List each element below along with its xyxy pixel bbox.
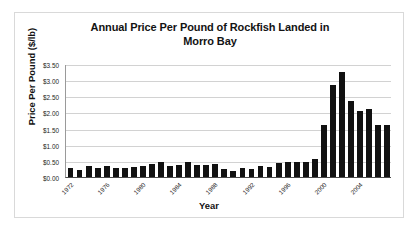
x-axis-title: Year <box>15 200 403 211</box>
bar <box>194 165 200 177</box>
bar <box>258 166 264 177</box>
y-axis-tick-label: $0.50 <box>43 158 59 165</box>
bar <box>366 109 372 177</box>
y-axis-tick-label: $1.50 <box>43 126 59 133</box>
bar <box>140 166 146 177</box>
x-axis-tick-label: 1976 <box>96 181 111 196</box>
x-axis-tick-label: 1996 <box>277 181 292 196</box>
bar <box>113 168 119 177</box>
x-axis-tick-label: 2000 <box>313 181 328 196</box>
bar <box>185 162 191 177</box>
bar <box>77 170 83 177</box>
x-axis-tick-label: 1984 <box>168 181 183 196</box>
bar <box>348 101 354 177</box>
bar <box>339 72 345 177</box>
bar <box>249 169 255 177</box>
bar <box>131 167 137 177</box>
y-axis-tick-label: $3.00 <box>43 78 59 85</box>
chart-title-line-2: Morro Bay <box>183 35 237 47</box>
bar <box>122 168 128 177</box>
bar <box>68 168 74 177</box>
bar <box>321 125 327 177</box>
bar <box>203 165 209 177</box>
bar <box>330 85 336 177</box>
bar <box>357 111 363 177</box>
x-axis-tick-label: 1980 <box>132 181 147 196</box>
bar-series <box>66 65 391 177</box>
bar <box>267 167 273 177</box>
bar <box>176 165 182 177</box>
bar <box>276 163 282 177</box>
y-axis-tick-labels: $3.50$3.00$2.50$2.00$1.50$1.00$0.50$0.00 <box>15 59 63 184</box>
bar <box>167 166 173 177</box>
bar <box>230 171 236 177</box>
bar <box>149 164 155 177</box>
x-axis-tick-label: 2004 <box>349 181 364 196</box>
y-axis-tick-label: $2.00 <box>43 110 59 117</box>
bar <box>104 166 110 177</box>
y-axis-tick-label: $2.50 <box>43 94 59 101</box>
bar <box>384 125 390 177</box>
bar <box>240 168 246 177</box>
bar <box>212 164 218 177</box>
chart-title: Annual Price Per Pound of Rockfish Lande… <box>43 20 377 48</box>
chart-title-line-1: Annual Price Per Pound of Rockfish Lande… <box>91 21 330 33</box>
plot-area <box>65 65 391 178</box>
bar <box>221 169 227 177</box>
bar <box>95 168 101 177</box>
y-axis-tick-label: $1.00 <box>43 142 59 149</box>
bar <box>294 162 300 177</box>
y-axis-tick-label: $3.50 <box>43 62 59 69</box>
y-axis-tick-label: $0.00 <box>43 175 59 182</box>
x-axis-tick-label: 1992 <box>241 181 256 196</box>
bar <box>375 125 381 177</box>
chart-card: Annual Price Per Pound of Rockfish Lande… <box>14 12 404 218</box>
bar <box>86 166 92 177</box>
bar <box>158 162 164 177</box>
bar <box>312 159 318 177</box>
x-axis-tick-label: 1988 <box>204 181 219 196</box>
bar <box>303 162 309 177</box>
bar <box>285 162 291 177</box>
